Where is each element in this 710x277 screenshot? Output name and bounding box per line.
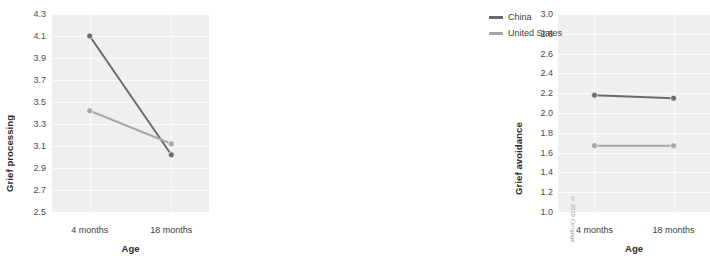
plot-area-left bbox=[52, 14, 209, 212]
legend-item-china[interactable]: China bbox=[489, 10, 577, 24]
legend-item-label: China bbox=[508, 12, 532, 22]
y-tick-label: 3.9 bbox=[33, 54, 46, 63]
x-tick-label: 4 months bbox=[576, 225, 613, 235]
x-tick-label: 18 months bbox=[150, 225, 192, 235]
data-point-marker bbox=[591, 143, 597, 149]
y-tick-label: 2.4 bbox=[540, 69, 553, 78]
y-tick-label: 2.0 bbox=[540, 109, 553, 118]
y-tick-label: 1.2 bbox=[540, 188, 553, 197]
y-axis-title-right: Grief avoidance bbox=[513, 55, 524, 195]
series-line-china bbox=[90, 36, 172, 155]
x-axis-title-left: Age bbox=[52, 243, 209, 254]
series-lines-right bbox=[558, 14, 710, 212]
y-tick-label: 2.6 bbox=[540, 50, 553, 59]
y-tick-label: 3.3 bbox=[33, 120, 46, 129]
y-tick-label: 2.5 bbox=[33, 208, 46, 217]
y-tick-label: 2.9 bbox=[33, 164, 46, 173]
legend-item-united-states[interactable]: United States bbox=[489, 26, 577, 40]
data-point-marker bbox=[168, 152, 174, 158]
data-point-marker bbox=[87, 33, 93, 39]
data-point-marker bbox=[591, 92, 597, 98]
chart-panel-grief-processing: Grief processing 4.34.13.93.73.53.33.12.… bbox=[0, 0, 255, 277]
y-tick-label: 2.7 bbox=[33, 186, 46, 195]
x-tick-label: 18 months bbox=[653, 225, 695, 235]
y-tick-label: 3.1 bbox=[33, 142, 46, 151]
chart-legend: ChinaUnited States bbox=[489, 10, 577, 42]
data-point-marker bbox=[87, 108, 93, 114]
y-tick-label: 1.8 bbox=[540, 129, 553, 138]
y-axis-ticks-left: 4.34.13.93.73.53.33.12.92.72.5 bbox=[20, 0, 46, 215]
y-tick-label: 1.0 bbox=[540, 208, 553, 217]
series-line-united-states bbox=[90, 111, 172, 144]
data-point-marker bbox=[671, 95, 677, 101]
x-axis-title-right: Age bbox=[558, 243, 710, 254]
legend-line-swatch bbox=[489, 32, 503, 35]
y-tick-label: 1.6 bbox=[540, 149, 553, 158]
y-tick-label: 3.7 bbox=[33, 76, 46, 85]
copyright-credit: © 2019 Cengage bbox=[570, 196, 576, 242]
legend-item-label: United States bbox=[508, 28, 562, 38]
y-tick-label: 4.1 bbox=[33, 32, 46, 41]
plot-area-right bbox=[558, 14, 710, 212]
y-tick-label: 4.3 bbox=[33, 10, 46, 19]
series-lines-left bbox=[52, 14, 209, 212]
series-line-china bbox=[594, 95, 673, 98]
legend-line-swatch bbox=[489, 16, 503, 19]
data-point-marker bbox=[168, 141, 174, 147]
y-tick-label: 1.4 bbox=[540, 168, 553, 177]
y-tick-label: 3.5 bbox=[33, 98, 46, 107]
chart-panel-grief-avoidance: Grief avoidance 3.02.82.62.42.22.01.81.6… bbox=[255, 0, 485, 277]
y-tick-label: 2.2 bbox=[540, 89, 553, 98]
x-tick-label: 4 months bbox=[71, 225, 108, 235]
data-point-marker bbox=[671, 143, 677, 149]
y-axis-title-left: Grief processing bbox=[4, 62, 15, 192]
